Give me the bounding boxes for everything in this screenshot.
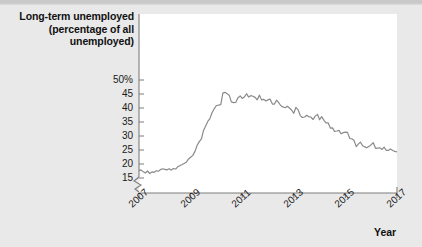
y-tick-label: 30 — [99, 131, 133, 141]
axis-lines — [0, 0, 422, 247]
y-tick-label: 40 — [99, 103, 133, 113]
y-tick-label: 25 — [99, 145, 133, 155]
y-tick-label: 15 — [99, 173, 133, 183]
x-axis-title: Year — [374, 226, 396, 238]
y-tick-label: 35 — [99, 117, 133, 127]
y-tick-label: 50% — [99, 75, 133, 85]
chart-figure: Long-term unemployed (percentage of all … — [0, 0, 422, 247]
y-tick-label: 20 — [99, 159, 133, 169]
y-tick-label: 45 — [99, 89, 133, 99]
